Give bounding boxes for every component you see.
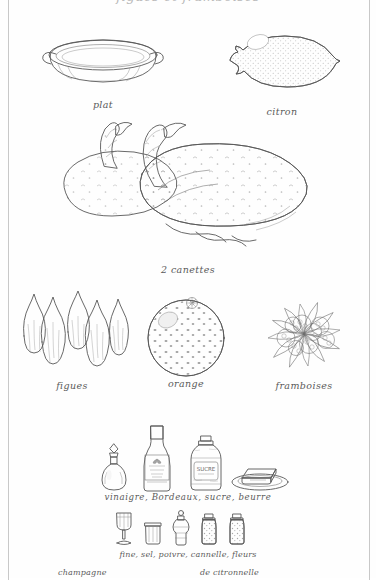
row-spices: fine, sel, poivre, cannelle, fleurs cham… bbox=[0, 506, 376, 578]
lemon-icon bbox=[222, 22, 342, 94]
item-canettes: 2 canettes bbox=[46, 112, 330, 275]
caption-canettes: 2 canettes bbox=[46, 264, 330, 275]
caption-plat: plat bbox=[38, 99, 168, 110]
item-figues: figues bbox=[16, 290, 128, 391]
spice-jar-cinnamon-icon bbox=[198, 512, 220, 546]
row-ducks: 2 canettes bbox=[0, 112, 376, 277]
item-poivre bbox=[168, 509, 194, 547]
brandy-glass-icon bbox=[112, 510, 136, 546]
orange-icon bbox=[130, 294, 242, 378]
butter-on-dish-icon bbox=[230, 458, 290, 492]
caption-spices-line2-right: de citronnelle bbox=[200, 568, 259, 577]
item-bordeaux bbox=[138, 424, 176, 492]
two-plucked-ducks-icon bbox=[46, 112, 330, 260]
cropped-header-label: figues et framboises bbox=[0, 0, 376, 4]
sugar-jar-label: SUCRE bbox=[197, 466, 216, 472]
row-dish-lemon: plat citron bbox=[0, 22, 376, 112]
item-fleurs-de-citronnelle bbox=[226, 512, 248, 546]
caption-spices-line2-left: champagne bbox=[58, 568, 107, 577]
item-beurre bbox=[230, 458, 290, 492]
item-sucre: SUCRE bbox=[185, 434, 227, 492]
cropped-header-text: figues et framboises bbox=[0, 0, 376, 9]
row-pantry: SUCRE bbox=[0, 418, 376, 508]
pepper-mill-icon bbox=[168, 509, 194, 547]
sugar-jar-icon: SUCRE bbox=[185, 434, 227, 492]
item-framboises: framboises bbox=[246, 290, 362, 391]
item-vinaigre bbox=[96, 442, 132, 492]
caption-spices-line1: fine, sel, poivre, cannelle, fleurs bbox=[0, 550, 376, 559]
item-plat: plat bbox=[38, 30, 168, 110]
item-citron: citron bbox=[222, 22, 342, 117]
cruet-bottle-icon bbox=[96, 442, 132, 492]
item-sel bbox=[142, 520, 164, 546]
caption-pantry-group: vinaigre, Bordeaux, sucre, beurre bbox=[0, 492, 376, 502]
oval-gratin-dish-icon bbox=[38, 30, 168, 92]
item-cannelle bbox=[198, 512, 220, 546]
salt-cellar-icon bbox=[142, 520, 164, 546]
caption-framboises: framboises bbox=[246, 380, 362, 391]
item-orange: orange bbox=[130, 294, 242, 389]
spice-jar-lemongrass-icon bbox=[226, 512, 248, 546]
caption-figues: figues bbox=[16, 380, 128, 391]
five-figs-icon bbox=[16, 290, 128, 378]
wine-bottle-icon bbox=[138, 424, 176, 492]
caption-orange: orange bbox=[130, 378, 242, 389]
raspberries-on-leaves-icon bbox=[246, 290, 362, 378]
row-fruit: figues bbox=[0, 288, 376, 396]
item-fine-champagne bbox=[112, 510, 136, 546]
